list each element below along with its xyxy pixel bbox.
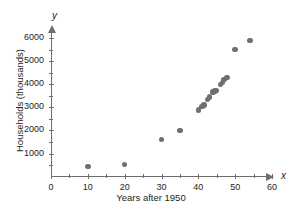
x-tick-label: 40 (183, 182, 213, 192)
y-tick-major (49, 38, 54, 39)
y-tick-minor (49, 119, 53, 120)
y-tick-major (49, 61, 54, 62)
data-point (122, 162, 127, 167)
data-point (247, 38, 252, 43)
x-tick-minor (143, 174, 144, 178)
x-tick-minor (180, 174, 181, 178)
data-point (177, 128, 182, 133)
y-tick-major (49, 154, 54, 155)
x-tick-label: 20 (110, 182, 140, 192)
x-tick-major (272, 174, 273, 179)
x-tick-minor (106, 174, 107, 178)
data-point (201, 102, 206, 107)
y-axis-symbol: y (52, 10, 57, 21)
data-point (224, 75, 229, 80)
x-tick-major (235, 174, 236, 179)
y-tick-major (49, 130, 54, 131)
x-tick-major (162, 174, 163, 179)
x-tick-minor (69, 174, 70, 178)
data-point (159, 137, 164, 142)
x-tick-major (88, 174, 89, 179)
x-axis-symbol: x (281, 170, 286, 181)
x-axis-title: Years after 1950 (0, 192, 302, 203)
x-tick-major (51, 174, 52, 179)
y-axis-title: Households (thousands) (14, 26, 25, 176)
y-tick-major (49, 107, 54, 108)
data-point (85, 164, 90, 169)
data-point (232, 47, 237, 52)
y-axis-line (51, 32, 52, 177)
x-tick-label: 60 (257, 182, 287, 192)
x-tick-label: 30 (147, 182, 177, 192)
y-axis-arrow-icon (48, 25, 56, 33)
data-point (207, 94, 212, 99)
y-tick-minor (49, 142, 53, 143)
data-point (214, 88, 219, 93)
x-tick-minor (217, 174, 218, 178)
y-tick-minor (49, 96, 53, 97)
y-tick-major (49, 84, 54, 85)
x-tick-major (125, 174, 126, 179)
y-tick-minor (49, 50, 53, 51)
y-tick-minor (49, 73, 53, 74)
scatter-plot: 0102030405060 100020003000400050006000 x… (0, 0, 302, 214)
x-tick-label: 10 (73, 182, 103, 192)
x-tick-label: 50 (220, 182, 250, 192)
x-tick-major (198, 174, 199, 179)
x-tick-label: 0 (36, 182, 66, 192)
x-tick-minor (254, 174, 255, 178)
y-tick-minor (49, 165, 53, 166)
